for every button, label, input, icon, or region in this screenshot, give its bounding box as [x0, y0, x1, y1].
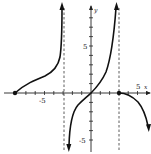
y-tick-label-5: 5 — [83, 43, 87, 51]
x-tick-label-neg5: -5 — [39, 97, 46, 105]
arrow-up-icon — [114, 2, 119, 10]
y-axis-label: y — [93, 6, 98, 14]
y-tick-label-neg5: -5 — [79, 137, 86, 145]
x-tick-label-5: 5 — [136, 83, 140, 91]
arrow-up-icon — [60, 2, 65, 10]
curve-branch-middle — [69, 8, 116, 146]
function-graph: -5 5 x 5 -5 y — [0, 0, 151, 154]
arrow-down-icon — [66, 144, 71, 152]
closed-dot-left — [13, 91, 17, 95]
arrow-down-icon — [146, 124, 151, 132]
curve-branch-right — [119, 93, 148, 126]
x-axis-label: x — [144, 83, 148, 90]
curve-branch-left — [15, 8, 62, 93]
closed-dot-right — [117, 91, 121, 95]
y-axis-arrow-icon — [89, 5, 93, 10]
